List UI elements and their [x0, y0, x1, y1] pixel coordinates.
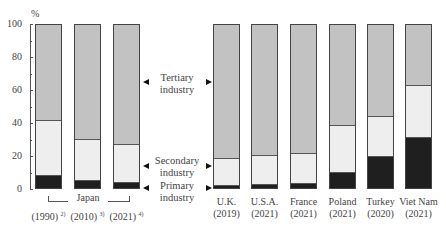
category-name: Viet Nam — [395, 196, 442, 208]
segment-tertiary — [75, 25, 100, 139]
segment-primary — [368, 157, 393, 188]
y-tick-label: 100 — [4, 18, 22, 29]
arrow-left-secondary-icon — [143, 163, 149, 169]
y-tick-label: 40 — [4, 117, 22, 128]
segment-secondary — [330, 125, 355, 172]
segment-secondary — [406, 85, 431, 139]
stacked-bar — [74, 24, 101, 189]
category-year: (2021) — [109, 211, 136, 222]
stacked-bar — [213, 24, 240, 189]
segment-tertiary — [291, 25, 316, 153]
segment-secondary — [368, 116, 393, 157]
legend-secondary-line2: industry — [146, 167, 208, 179]
segment-tertiary — [368, 25, 393, 116]
legend-tertiary-line2: industry — [148, 84, 206, 96]
legend-secondary-line1: Secondary — [146, 155, 208, 167]
y-tick — [30, 156, 33, 157]
segment-tertiary — [114, 25, 139, 144]
y-tick — [30, 57, 33, 58]
y-tick-label: 20 — [4, 150, 22, 161]
legend-tertiary: Tertiary industry — [148, 72, 206, 96]
segment-primary — [114, 183, 139, 188]
stacked-bar — [405, 24, 432, 189]
y-tick-label: 80 — [4, 51, 22, 62]
y-tick — [30, 90, 33, 91]
stacked-bar — [251, 24, 278, 189]
segment-tertiary — [252, 25, 277, 155]
segment-primary — [406, 138, 431, 188]
y-axis-unit: % — [31, 8, 39, 19]
stacked-bar — [35, 24, 62, 189]
segment-secondary — [214, 158, 239, 187]
segment-primary — [330, 173, 355, 188]
legend-primary-line2: industry — [146, 192, 208, 204]
arrow-left-primary-icon — [143, 185, 149, 191]
legend-primary: Primary industry — [146, 180, 208, 204]
y-tick-label: 0 — [4, 183, 22, 194]
stacked-bar — [329, 24, 356, 189]
segment-secondary — [291, 153, 316, 184]
segment-tertiary — [36, 25, 61, 120]
legend-primary-line1: Primary — [146, 180, 208, 192]
arrow-right-tertiary-icon — [206, 79, 212, 85]
category-year: (1990) — [31, 211, 58, 222]
segment-secondary — [114, 144, 139, 183]
category-label: (2021) 4) — [103, 208, 150, 223]
segment-tertiary — [330, 25, 355, 125]
category-year: (2010) — [70, 211, 97, 222]
y-minor-tick — [30, 173, 32, 174]
segment-tertiary — [214, 25, 239, 158]
segment-primary — [214, 186, 239, 188]
segment-tertiary — [406, 25, 431, 85]
category-label: Viet Nam(2021) — [395, 196, 442, 220]
category-year: (2021) — [395, 208, 442, 220]
y-tick — [30, 123, 33, 124]
stacked-bar — [367, 24, 394, 189]
y-tick — [30, 189, 33, 190]
segment-secondary — [36, 120, 61, 175]
y-minor-tick — [30, 74, 32, 75]
segment-primary — [252, 185, 277, 188]
y-minor-tick — [30, 107, 32, 108]
segment-primary — [36, 176, 61, 188]
y-tick — [30, 24, 33, 25]
stacked-bar — [113, 24, 140, 189]
segment-secondary — [252, 155, 277, 185]
segment-primary — [75, 181, 100, 188]
arrow-right-primary-icon — [206, 185, 212, 191]
arrow-right-secondary-icon — [206, 163, 212, 169]
japan-group-label: Japan — [68, 192, 108, 204]
y-minor-tick — [30, 140, 32, 141]
y-tick-label: 60 — [4, 84, 22, 95]
segment-primary — [291, 184, 316, 188]
legend-tertiary-line1: Tertiary — [148, 72, 206, 84]
footnote-ref: 4) — [139, 211, 144, 217]
segment-secondary — [75, 139, 100, 180]
y-minor-tick — [30, 41, 32, 42]
arrow-left-tertiary-icon — [143, 79, 149, 85]
stacked-bar — [290, 24, 317, 189]
legend-secondary: Secondary industry — [146, 155, 208, 179]
